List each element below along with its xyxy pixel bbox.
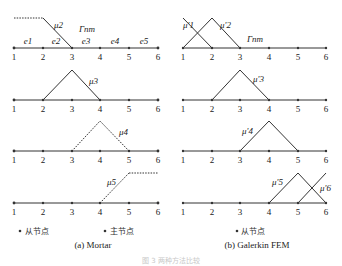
- svg-text:1: 1: [181, 155, 186, 165]
- element-labels: e1 e2 e3 e4 e5: [24, 36, 149, 46]
- svg-text:4: 4: [98, 104, 103, 114]
- caption-galerkin: (b) Galerkin FEM: [225, 240, 290, 250]
- svg-text:3: 3: [70, 52, 75, 62]
- svg-text:5: 5: [296, 155, 301, 165]
- svg-text:4: 4: [267, 104, 272, 114]
- svg-text:6: 6: [156, 52, 161, 62]
- svg-text:5: 5: [127, 104, 132, 114]
- node-number-labels: 123456 123456 123456 123456 123456 12345…: [12, 52, 329, 217]
- svg-text:3: 3: [238, 52, 243, 62]
- svg-text:从节点: 从节点: [241, 227, 265, 236]
- svg-text:6: 6: [324, 155, 329, 165]
- svg-text:2: 2: [210, 155, 215, 165]
- svg-text:3: 3: [70, 155, 75, 165]
- svg-text:1: 1: [12, 52, 17, 62]
- svg-text:2: 2: [210, 207, 215, 217]
- svg-text:e1: e1: [24, 36, 33, 46]
- svg-text:5: 5: [127, 207, 132, 217]
- basis-labels-right: μ'1 μ'2 μ'3 μ'4 μ'5 μ'6: [182, 20, 331, 193]
- svg-text:5: 5: [296, 207, 301, 217]
- svg-text:e2: e2: [52, 36, 61, 46]
- svg-text:4: 4: [98, 155, 103, 165]
- svg-text:5: 5: [296, 52, 301, 62]
- svg-text:μ'2: μ'2: [219, 20, 231, 30]
- svg-text:1: 1: [12, 207, 17, 217]
- svg-text:5: 5: [127, 155, 132, 165]
- svg-text:1: 1: [181, 207, 186, 217]
- svg-text:5: 5: [296, 104, 301, 114]
- svg-text:3: 3: [70, 104, 75, 114]
- svg-text:μ4: μ4: [118, 127, 129, 137]
- svg-text:1: 1: [181, 104, 186, 114]
- svg-text:3: 3: [70, 207, 75, 217]
- svg-text:从节点: 从节点: [25, 227, 49, 236]
- svg-text:2: 2: [41, 207, 46, 217]
- caption-mortar: (a) Mortar: [74, 240, 111, 250]
- svg-text:4: 4: [267, 155, 272, 165]
- svg-text:e3: e3: [82, 36, 91, 46]
- svg-text:1: 1: [12, 155, 17, 165]
- svg-text:μ'1: μ'1: [182, 20, 194, 30]
- svg-text:4: 4: [267, 52, 272, 62]
- legend-right: 从节点: [236, 227, 265, 236]
- svg-text:3: 3: [238, 207, 243, 217]
- svg-text:2: 2: [41, 52, 46, 62]
- svg-text:μ3: μ3: [88, 76, 99, 86]
- svg-text:4: 4: [98, 52, 103, 62]
- svg-text:2: 2: [210, 52, 215, 62]
- svg-text:μ5: μ5: [106, 177, 117, 187]
- svg-text:6: 6: [156, 155, 161, 165]
- svg-text:μ2: μ2: [53, 20, 64, 30]
- svg-text:μ'6: μ'6: [319, 183, 331, 193]
- svg-text:2: 2: [210, 104, 215, 114]
- svg-text:μ'3: μ'3: [252, 74, 264, 84]
- svg-text:μ'5: μ'5: [271, 177, 283, 187]
- svg-text:4: 4: [267, 207, 272, 217]
- gamma-nm-label-left: Γnm: [78, 24, 96, 34]
- svg-text:6: 6: [156, 207, 161, 217]
- svg-text:e4: e4: [111, 36, 120, 46]
- svg-text:5: 5: [127, 52, 132, 62]
- svg-text:6: 6: [324, 52, 329, 62]
- svg-text:3: 3: [238, 104, 243, 114]
- svg-text:6: 6: [156, 104, 161, 114]
- legend-left: 从节点 主节点: [19, 226, 134, 236]
- svg-text:1: 1: [12, 104, 17, 114]
- svg-text:主节点: 主节点: [110, 226, 134, 236]
- svg-text:1: 1: [181, 52, 186, 62]
- svg-text:2: 2: [41, 104, 46, 114]
- diagram-svg: 123456 123456 123456 123456 123456 12345…: [0, 0, 342, 266]
- svg-text:μ'4: μ'4: [241, 126, 253, 136]
- svg-text:3: 3: [238, 155, 243, 165]
- svg-text:6: 6: [324, 207, 329, 217]
- svg-text:4: 4: [98, 207, 103, 217]
- svg-text:2: 2: [41, 155, 46, 165]
- svg-text:6: 6: [324, 104, 329, 114]
- diagram-canvas: 123456 123456 123456 123456 123456 12345…: [0, 0, 342, 266]
- svg-text:e5: e5: [140, 36, 149, 46]
- figure-caption: 图 3 两种方法比较: [142, 256, 200, 265]
- left-nodes: [13, 47, 160, 205]
- gamma-nm-label-right: Γnm: [246, 34, 264, 44]
